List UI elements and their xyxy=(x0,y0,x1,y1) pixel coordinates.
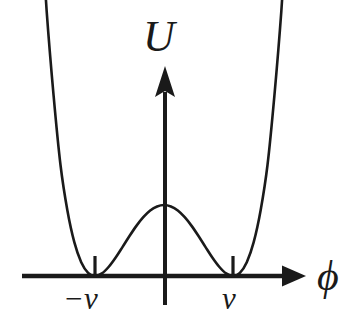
potential-figure: U ϕ −v v xyxy=(0,0,360,331)
plot-canvas xyxy=(0,0,360,331)
tick-label-pos-v: v xyxy=(222,283,236,314)
y-axis-label: U xyxy=(143,15,175,59)
x-axis-label: ϕ xyxy=(317,255,339,297)
x-axis-arrowhead xyxy=(282,266,306,287)
tick-label-neg-v: −v xyxy=(63,283,98,314)
